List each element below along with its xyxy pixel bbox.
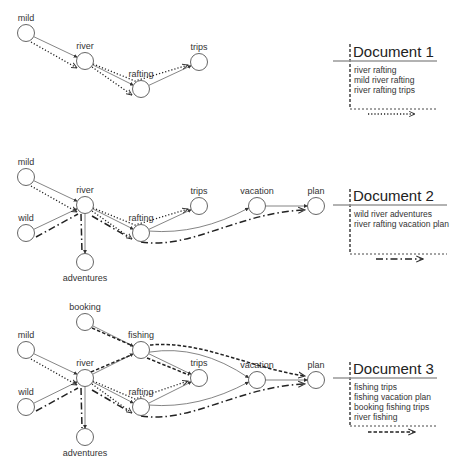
node-label: trips [190,42,208,52]
node-label: mild [18,157,35,167]
node-rafting: rafting [128,69,153,98]
panel-doc2: mildwildriveradventuresraftingtripsvacat… [17,157,449,283]
node-label: booking [69,302,101,312]
node-circle [249,198,266,215]
node-circle [77,314,94,331]
node-trips: trips [190,358,208,387]
node-circle [18,342,35,359]
query-path-doc1 [92,384,132,413]
node-trips: trips [190,42,208,71]
node-circle [191,198,208,215]
node-circle [77,53,94,70]
path-diagram: mildriverraftingtripsDocument 1river raf… [0,0,466,471]
node-label: trips [190,186,208,196]
document-title: Document 2 [353,187,434,204]
document-phrase: mild river rafting [354,75,415,85]
node-wild: wild [17,387,34,416]
node-circle [18,225,35,242]
node-label: wild [17,213,34,223]
node-circle [77,197,94,214]
node-circle [133,399,150,416]
node-circle [77,254,94,271]
panel-doc1: mildriverraftingtripsDocument 1river raf… [18,13,439,114]
node-circle [191,54,208,71]
node-booking: booking [69,302,101,331]
document-phrase: wild river adventures [353,209,432,219]
node-circle [133,225,150,242]
node-adventures: adventures [63,429,108,459]
node-circle [133,81,150,98]
node-circle [77,370,94,387]
node-circle [308,198,325,215]
node-river: river [76,358,94,387]
node-label: trips [190,358,208,368]
document-card: Document 3fishing tripsfishing vacation … [333,360,438,432]
document-phrase: river fishing [354,412,398,422]
node-circle [18,399,35,416]
edge-rafting-trips [149,66,192,86]
query-path-doc2 [36,384,305,428]
node-label: mild [18,330,35,340]
node-circle [308,372,325,389]
node-mild: mild [18,157,35,186]
node-trips: trips [190,186,208,215]
node-river: river [76,41,94,70]
node-rafting: rafting [128,387,153,416]
node-label: rafting [128,213,153,223]
edge-fishing-trips [149,354,192,375]
node-label: river [76,41,94,51]
edge-wild-river [34,209,78,230]
node-rafting: rafting [128,213,153,242]
node-label: adventures [63,273,108,283]
edge-rafting-trips [149,382,192,403]
node-label: mild [18,13,35,23]
node-circle [249,372,266,389]
document-card: Document 2wild river adventuresriver raf… [333,187,449,259]
document-phrase: river rafting [354,65,397,75]
document-title: Document 1 [353,43,434,60]
node-label: vacation [240,186,274,196]
node-mild: mild [18,13,35,42]
node-circle [77,429,94,446]
node-circle [18,25,35,42]
document-card: Document 1river raftingmild river raftin… [333,43,438,114]
node-label: river [76,185,94,195]
document-phrase: fishing vacation plan [354,392,431,402]
document-phrase: fishing trips [354,382,397,392]
node-label: fishing [128,330,154,340]
node-label: rafting [128,69,153,79]
edge-rafting-trips [149,210,192,230]
node-label: plan [307,360,324,370]
document-title: Document 3 [353,360,434,377]
node-vacation: vacation [240,360,274,389]
node-circle [18,169,35,186]
node-mild: mild [18,330,35,359]
node-label: wild [17,387,34,397]
document-phrase: river rafting vacation plan [354,219,449,229]
node-vacation: vacation [240,186,274,215]
node-label: plan [307,186,324,196]
node-adventures: adventures [63,254,108,284]
node-label: adventures [63,448,108,458]
node-wild: wild [17,213,34,242]
node-label: vacation [240,360,274,370]
document-phrase: river rafting trips [354,85,415,95]
node-plan: plan [307,186,324,215]
node-plan: plan [307,360,324,389]
node-river: river [76,185,94,214]
node-label: river [76,358,94,368]
node-label: rafting [128,387,153,397]
document-phrase: booking fishing trips [354,402,429,412]
node-circle [191,370,208,387]
panel-doc3: bookingmildfishingwildriveradventuresraf… [17,302,438,458]
node-circle [133,342,150,359]
